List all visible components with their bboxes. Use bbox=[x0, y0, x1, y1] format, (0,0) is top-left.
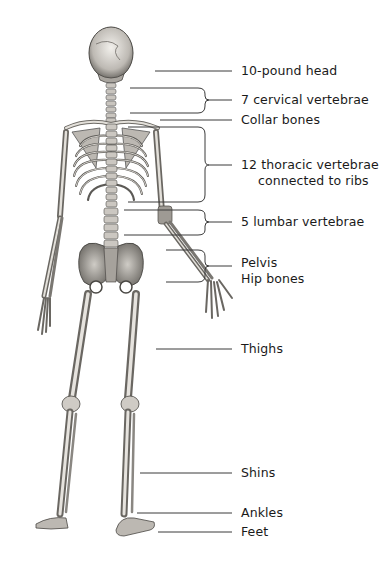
pelvis bbox=[79, 243, 144, 293]
label-head: 10-pound head bbox=[241, 63, 337, 78]
skull bbox=[89, 27, 133, 83]
left-leg bbox=[36, 294, 88, 529]
right-arm bbox=[156, 132, 232, 318]
label-collar-bones: Collar bones bbox=[241, 112, 320, 127]
right-leg bbox=[116, 294, 155, 536]
skeleton-diagram: 10-pound head 7 cervical vertebrae Colla… bbox=[0, 0, 382, 574]
spine bbox=[104, 124, 118, 247]
label-pelvis: Pelvis bbox=[241, 255, 277, 270]
skeleton-illustration bbox=[0, 0, 382, 574]
label-thoracic-vertebrae: 12 thoracic vertebrae connected to ribs bbox=[241, 157, 379, 189]
label-lumbar-vertebrae: 5 lumbar vertebrae bbox=[241, 214, 364, 229]
cervical-spine bbox=[106, 83, 116, 123]
label-cervical-vertebrae: 7 cervical vertebrae bbox=[241, 92, 369, 107]
label-thoracic-line1: 12 thoracic vertebrae bbox=[241, 157, 379, 172]
label-feet: Feet bbox=[241, 524, 268, 539]
label-ankles: Ankles bbox=[241, 505, 283, 520]
left-arm bbox=[38, 132, 66, 334]
label-shins: Shins bbox=[241, 465, 275, 480]
label-hip-bones: Hip bones bbox=[241, 271, 304, 286]
label-thoracic-line2: connected to ribs bbox=[241, 173, 379, 189]
label-thighs: Thighs bbox=[241, 341, 283, 356]
